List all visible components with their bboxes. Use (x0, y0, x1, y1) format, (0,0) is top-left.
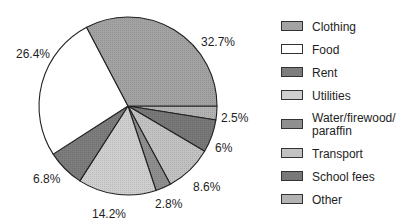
legend-label: Transport (312, 148, 407, 161)
label-rent: 6.8% (33, 173, 60, 186)
legend-label: Water/firewood/ paraffin (312, 112, 390, 138)
label-food: 26.4% (16, 48, 50, 61)
label-utilities: 14.2% (92, 208, 126, 221)
pie-slices (39, 17, 217, 195)
legend-swatch (281, 21, 303, 31)
legend-swatch (281, 119, 303, 129)
label-other: 2.5% (221, 112, 248, 125)
legend-label: Rent (312, 67, 407, 80)
legend-item-utilities: Utilities (281, 90, 407, 103)
legend-label: Other (312, 194, 407, 207)
legend-label: School fees (312, 171, 407, 184)
legend-swatch (281, 171, 303, 181)
label-water: 2.8% (155, 198, 182, 211)
legend-item-food: Food (281, 44, 407, 57)
legend-item-transport: Transport (281, 148, 407, 161)
legend-item-clothing: Clothing (281, 21, 407, 34)
legend-item-rent: Rent (281, 67, 407, 80)
legend-swatch (281, 148, 303, 158)
legend-item-other: Other (281, 194, 407, 207)
legend-label: Utilities (312, 90, 407, 103)
legend-item-water-firewood-paraffin: Water/firewood/ paraffin (281, 112, 390, 138)
legend-swatch (281, 67, 303, 77)
legend-swatch (281, 90, 303, 100)
label-clothing: 32.7% (201, 36, 235, 49)
label-transport: 8.6% (193, 181, 220, 194)
legend-label: Clothing (312, 21, 407, 34)
legend-swatch (281, 44, 303, 54)
legend-label: Food (312, 44, 407, 57)
legend-swatch (281, 194, 303, 204)
label-school-fees: 6% (215, 142, 232, 155)
legend-item-school-fees: School fees (281, 171, 407, 184)
